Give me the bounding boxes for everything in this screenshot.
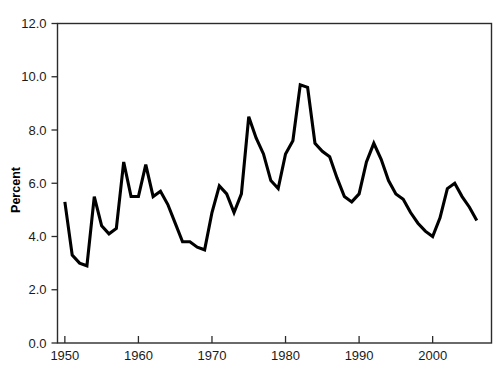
data-series-group <box>65 85 477 266</box>
y-tick-label: 8.0 <box>28 123 46 138</box>
y-tick-label: 12.0 <box>21 16 46 31</box>
x-axis-tick-labels: 195019601970198019902000 <box>50 348 447 363</box>
x-tick-label: 2000 <box>418 348 447 363</box>
y-tick-label: 6.0 <box>28 176 46 191</box>
y-tick-label: 2.0 <box>28 282 46 297</box>
x-tick-label: 1990 <box>345 348 374 363</box>
x-tick-label: 1980 <box>271 348 300 363</box>
y-axis-tick-labels: 0.02.04.06.08.010.012.0 <box>21 16 46 351</box>
x-axis-ticks <box>65 336 433 343</box>
chart-figure: 0.02.04.06.08.010.012.0 1950196019701980… <box>0 0 500 373</box>
line-chart: 0.02.04.06.08.010.012.0 1950196019701980… <box>0 0 500 373</box>
x-tick-label: 1960 <box>124 348 153 363</box>
series-line-percent <box>65 85 477 266</box>
y-axis-title: Percent <box>9 166 23 213</box>
y-tick-label: 4.0 <box>28 229 46 244</box>
y-axis-ticks <box>52 24 58 344</box>
x-tick-label: 1950 <box>50 348 79 363</box>
x-tick-label: 1970 <box>198 348 227 363</box>
y-tick-label: 0.0 <box>28 336 46 351</box>
y-tick-label: 10.0 <box>21 69 46 84</box>
